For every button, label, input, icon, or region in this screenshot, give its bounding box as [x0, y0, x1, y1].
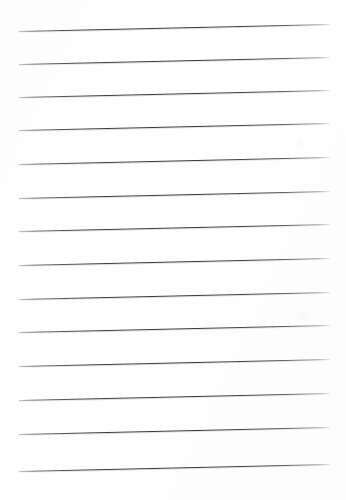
- paper-surface: [0, 0, 346, 500]
- lined-paper-page: [0, 0, 346, 500]
